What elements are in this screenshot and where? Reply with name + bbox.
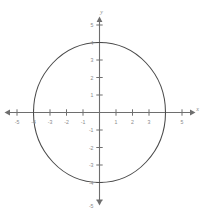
x-tick-label-2: 2 [131,119,134,125]
x-tick-label-3: 3 [148,119,151,125]
x-axis-label: x [195,106,199,112]
y-tick-label-1: 1 [91,92,94,98]
x-tick-label-minus-1: -1 [81,119,86,125]
y-axis-group [97,17,103,206]
y-tick-label-minus-1: -1 [89,127,94,133]
x-axis-arrow-left-icon [5,110,11,116]
y-tick-label-minus-4: -4 [89,180,94,186]
y-axis-arrow-up-icon [97,17,103,23]
x-tick-label-minus-4: -4 [31,119,36,125]
y-tick-label-2: 2 [91,75,94,81]
plot-canvas: -5 -4 -3 -2 -1 1 2 3 5 5 4 3 2 1 -1 -2 -… [0,0,206,214]
coordinate-plane-figure: -5 -4 -3 -2 -1 1 2 3 5 5 4 3 2 1 -1 -2 -… [0,0,206,214]
x-tick-label-minus-5: -5 [15,119,20,125]
x-tick-label-5: 5 [181,119,184,125]
y-tick-labels: 5 4 3 2 1 -1 -2 -3 -4 -5 [89,22,94,209]
y-tick-label-4: 4 [91,40,94,46]
y-tick-label-3: 3 [91,57,94,63]
y-axis-arrow-down-icon [97,200,103,206]
y-tick-label-minus-5: -5 [89,203,94,209]
x-tick-label-1: 1 [115,119,118,125]
y-tick-label-minus-3: -3 [89,162,94,168]
x-axis-arrow-right-icon [190,110,196,116]
y-axis-label: y [99,9,103,15]
x-tick-label-minus-2: -2 [64,119,69,125]
y-tick-label-5: 5 [91,22,94,28]
x-tick-label-minus-3: -3 [48,119,53,125]
y-tick-label-minus-2: -2 [89,145,94,151]
